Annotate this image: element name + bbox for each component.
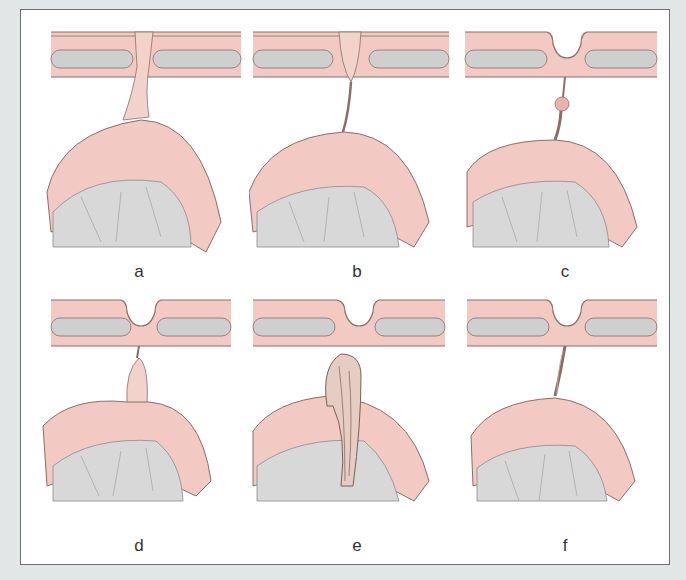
panel-label: e <box>249 536 465 556</box>
panel-label: d <box>31 536 247 556</box>
panel-e: e <box>249 296 465 566</box>
membrane-layers <box>253 300 445 346</box>
panel-b: b <box>249 22 465 292</box>
panel-b-illustration <box>249 22 465 262</box>
panel-label: f <box>457 536 673 556</box>
panel-f-illustration <box>457 296 673 536</box>
membrane-layers <box>465 32 657 77</box>
panel-label: b <box>249 262 465 282</box>
panel-f: f <box>457 296 673 566</box>
membrane-layers <box>51 300 231 346</box>
panel-label: c <box>457 262 673 282</box>
panel-d: d <box>31 296 247 566</box>
figure-frame: a b <box>20 9 670 565</box>
panel-label: a <box>31 262 247 282</box>
panel-a: a <box>31 22 247 292</box>
panel-d-illustration <box>31 296 247 536</box>
panel-a-illustration <box>31 22 247 262</box>
membrane-layers <box>467 300 657 346</box>
panel-e-illustration <box>249 296 465 536</box>
panel-c-illustration <box>457 22 673 262</box>
panel-c: c <box>457 22 673 292</box>
